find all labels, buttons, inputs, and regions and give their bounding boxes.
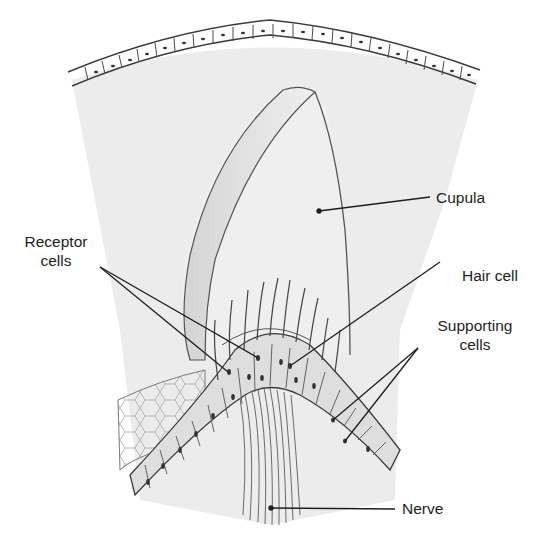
label-hair-cell: Hair cell — [462, 266, 518, 285]
label-receptor-line1: Receptor — [4, 232, 108, 251]
crista-ampullaris-diagram: Cupula Receptor cells Hair cell Supporti… — [0, 0, 537, 537]
label-supporting-line1: Supporting — [420, 316, 530, 335]
label-supporting-line2: cells — [420, 335, 530, 354]
label-supporting-cells: Supporting cells — [420, 316, 530, 354]
label-receptor-line2: cells — [4, 251, 108, 270]
label-nerve: Nerve — [402, 499, 443, 518]
label-receptor-cells: Receptor cells — [4, 232, 108, 270]
label-cupula: Cupula — [436, 188, 485, 207]
